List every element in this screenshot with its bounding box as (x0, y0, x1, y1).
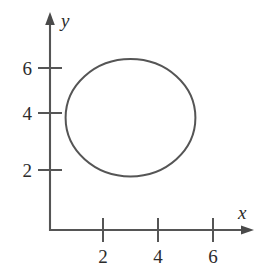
up-arrow-icon (45, 12, 55, 25)
y-tick-label-6: 6 (16, 59, 32, 78)
x-tick-label-4: 4 (148, 247, 168, 266)
y-axis-label: y (61, 11, 69, 30)
y-tick-label-4: 4 (16, 104, 32, 123)
x-axis-label: x (238, 203, 246, 222)
figure-canvas: 6 4 2 2 4 6 y x (0, 0, 264, 276)
ellipse-curve (66, 59, 196, 176)
y-tick-label-2: 2 (16, 161, 32, 180)
coordinate-plot (0, 0, 264, 276)
x-tick-label-2: 2 (93, 247, 113, 266)
x-tick-label-6: 6 (203, 247, 223, 266)
right-arrow-icon (241, 225, 254, 234)
